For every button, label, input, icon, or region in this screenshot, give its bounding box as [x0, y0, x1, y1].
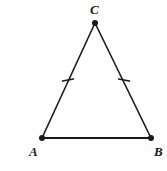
- vertex-label-c: C: [90, 3, 99, 16]
- vertex-label-b: B: [154, 145, 163, 158]
- tick-mark-BC-icon: [119, 79, 130, 81]
- vertex-dot-A: [39, 135, 45, 141]
- triangle-diagram: [0, 0, 167, 171]
- vertex-dot-C: [92, 20, 98, 26]
- vertex-label-a: A: [29, 145, 38, 158]
- vertex-dot-B: [148, 135, 154, 141]
- geometry-figure: C A B: [0, 0, 167, 171]
- tick-mark-AC-icon: [63, 79, 74, 81]
